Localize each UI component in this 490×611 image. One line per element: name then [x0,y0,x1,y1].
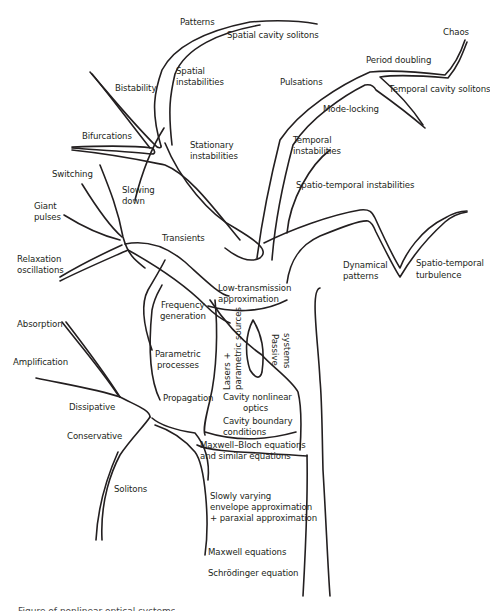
label-lasers-1: Lasers + [222,352,233,390]
label-spatio-temporal-turbulence-1: Spatio-temporal [416,258,484,269]
label-chaos: Chaos [443,27,469,38]
label-giant-pulses-1: Giant [34,201,57,212]
label-temporal-instabilities-2: instabilities [293,146,341,157]
label-temporal-instabilities-1: Temporal [293,135,332,146]
label-parametric-processes-1: Parametric [155,349,201,360]
label-mode-locking: Mode-locking [323,104,379,115]
label-passive-systems-1: Passive [269,334,280,366]
label-bistability: Bistability [115,83,156,94]
label-period-doubling: Period doubling [366,55,431,66]
label-cavity-boundary-1: Cavity boundary [223,416,292,427]
label-spatio-temporal-instabilities: Spatio-temporal instabilities [296,180,414,191]
label-low-transmission-2: approximation [218,294,279,305]
label-temporal-cavity-solitons: Temporal cavity solitons [389,84,490,95]
label-frequency-generation-2: generation [160,311,206,322]
label-maxwell-equations: Maxwell equations [208,547,286,558]
label-lasers-2: parametric sources [233,307,244,390]
label-parametric-processes-2: processes [157,360,199,371]
label-dynamical-patterns-1: Dynamical [343,260,388,271]
label-svea-3: + paraxial approximation [210,513,317,524]
label-low-transmission-1: Low-transmission [218,283,291,294]
label-relaxation-oscillations-1: Relaxation [17,254,61,265]
figure-caption: Figure of nonlinear optical systems [18,604,175,611]
label-schrodinger-equation: Schrödinger equation [208,568,298,579]
label-maxwell-bloch-2: and similar equations [200,451,291,462]
label-propagation: Propagation [163,393,213,404]
label-absorption: Absorption [17,319,63,330]
label-passive-systems-2: systems [281,333,292,369]
label-spatio-temporal-turbulence-2: turbulence [416,270,461,281]
label-pulsations: Pulsations [280,77,323,88]
label-bifurcations: Bifurcations [82,131,132,142]
label-patterns: Patterns [180,17,215,28]
label-dissipative: Dissipative [69,402,115,413]
label-spatial-cavity-solitons: Spatial cavity solitons [227,30,319,41]
label-relaxation-oscillations-2: oscillations [17,265,64,276]
label-frequency-generation-1: Frequency [161,300,205,311]
trunk-bottom-right [303,455,307,596]
label-conservative: Conservative [67,431,122,442]
label-svea-2: envelope approximation [210,502,312,513]
label-amplification: Amplification [13,357,68,368]
label-stationary-instabilities-1: Stationary [190,140,233,151]
label-cavity-nonlinear-optics-2: optics [243,403,268,414]
label-solitons: Solitons [114,484,147,495]
label-cavity-boundary-2: conditions [223,427,266,438]
trunk-right-edge [315,288,330,596]
label-switching: Switching [52,169,93,180]
label-svea-1: Slowly varying [210,491,271,502]
label-spatial-instabilities-2: instabilities [176,77,224,88]
label-cavity-nonlinear-optics-1: Cavity nonlinear [223,392,292,403]
label-dynamical-patterns-2: patterns [343,271,378,282]
label-spatial-instabilities-1: Spatial [176,66,205,77]
trunk-right-upper [287,150,330,233]
label-transients: Transients [162,233,205,244]
label-giant-pulses-2: pulses [34,212,61,223]
label-slowing-down-1: Slowing [122,185,155,196]
label-maxwell-bloch-1: Maxwell–Bloch equations [200,440,306,451]
label-slowing-down-2: down [122,196,145,207]
label-stationary-instabilities-2: instabilities [190,151,238,162]
